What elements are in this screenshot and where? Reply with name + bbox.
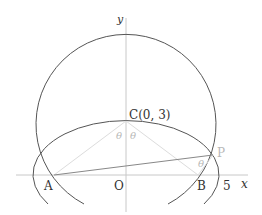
tick-5-label: 5 [223,180,231,192]
origin-label: O [114,180,124,192]
point-P-label: P [217,147,225,159]
point-A-label: A [44,180,53,192]
x-axis-label: x [241,178,248,190]
point-C-label: C(0, 3) [129,109,170,121]
angle-theta-right: θ [130,131,136,141]
segment-CB [126,121,198,175]
segment-AP [54,155,213,175]
angle-theta-left: θ [116,131,122,141]
y-axis-label: y [117,14,123,25]
diagram: y x O C(0, 3) A B P 5 θ θ θ [0,0,262,215]
point-B-label: B [197,180,206,192]
angle-theta-B: θ [198,159,204,169]
